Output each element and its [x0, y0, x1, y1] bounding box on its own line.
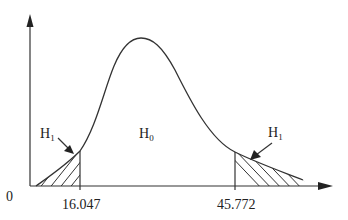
right-h1-pointer [250, 143, 272, 160]
lower-critical-value-label: 16.047 [62, 197, 101, 212]
density-curve [36, 38, 303, 186]
y-axis [27, 14, 34, 186]
h1-left-label: H1 [40, 126, 55, 143]
arrow-icon [64, 145, 74, 154]
arrow-icon [250, 150, 261, 160]
h1-right-label: H1 [268, 125, 283, 142]
left-h1-pointer [58, 138, 74, 154]
distribution-plot: 0 H1 H0 H1 16.047 45.772 [0, 0, 348, 220]
x-axis [30, 182, 333, 190]
x-axis-arrow-icon [318, 182, 333, 190]
hypothesis-test-diagram: 0 H1 H0 H1 16.047 45.772 [0, 0, 348, 220]
y-axis-arrow-icon [27, 14, 34, 27]
h0-label: H0 [139, 126, 154, 143]
upper-critical-value-label: 45.772 [217, 197, 256, 212]
left-rejection-region-hatch [20, 150, 110, 200]
origin-label: 0 [6, 189, 13, 204]
